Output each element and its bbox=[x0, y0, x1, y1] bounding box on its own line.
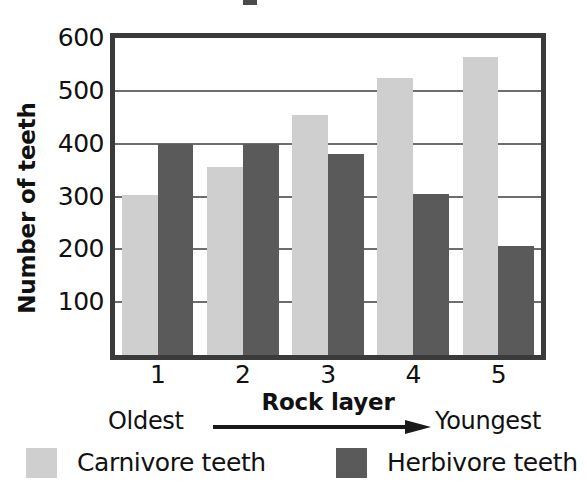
y-tick-label: 300 bbox=[36, 184, 104, 209]
bar-herbivore-teeth-layer-1 bbox=[158, 144, 194, 355]
y-tick-label: 200 bbox=[36, 236, 104, 261]
legend-label: Carnivore teeth bbox=[77, 448, 266, 478]
legend-swatch bbox=[26, 448, 57, 478]
x-tick-label: 5 bbox=[478, 361, 518, 389]
y-tick-label: 600 bbox=[36, 25, 104, 50]
cropped-title-remnant bbox=[243, 0, 257, 5]
y-tick-label: 100 bbox=[36, 289, 104, 314]
bar-herbivore-teeth-layer-2 bbox=[243, 144, 279, 355]
arrow-shaft bbox=[213, 425, 409, 429]
plot-area bbox=[110, 33, 546, 360]
bar-carnivore-teeth-layer-5 bbox=[463, 57, 499, 356]
age-direction-annotation: Oldest Youngest bbox=[0, 406, 587, 440]
x-tick-label: 1 bbox=[138, 361, 178, 389]
bar-carnivore-teeth-layer-1 bbox=[122, 195, 158, 355]
y-axis-tick-labels: 600500400300200100 bbox=[36, 0, 104, 380]
y-tick-label: 400 bbox=[36, 131, 104, 156]
legend-item: Carnivore teeth bbox=[26, 448, 266, 478]
y-tick-label: 500 bbox=[36, 78, 104, 103]
bar-carnivore-teeth-layer-2 bbox=[207, 167, 243, 355]
bar-chart-figure: Number of teeth 600500400300200100 12345… bbox=[0, 0, 587, 500]
arrow-head bbox=[405, 420, 431, 434]
bar-carnivore-teeth-layer-3 bbox=[292, 115, 328, 355]
bar-carnivore-teeth-layer-4 bbox=[377, 78, 413, 355]
bar-herbivore-teeth-layer-3 bbox=[328, 154, 364, 355]
x-tick-label: 3 bbox=[308, 361, 348, 389]
legend-item: Herbivore teeth bbox=[336, 448, 578, 478]
plot-inner bbox=[115, 38, 541, 355]
x-tick-label: 2 bbox=[223, 361, 263, 389]
oldest-label: Oldest bbox=[108, 406, 184, 436]
legend-swatch bbox=[336, 448, 367, 478]
right-arrow-icon bbox=[213, 420, 431, 434]
chart-legend: Carnivore teethHerbivore teeth bbox=[0, 448, 587, 492]
legend-label: Herbivore teeth bbox=[387, 448, 578, 478]
bar-herbivore-teeth-layer-4 bbox=[413, 194, 449, 355]
bar-herbivore-teeth-layer-5 bbox=[498, 246, 534, 355]
x-tick-label: 4 bbox=[393, 361, 433, 389]
youngest-label: Youngest bbox=[435, 406, 541, 436]
